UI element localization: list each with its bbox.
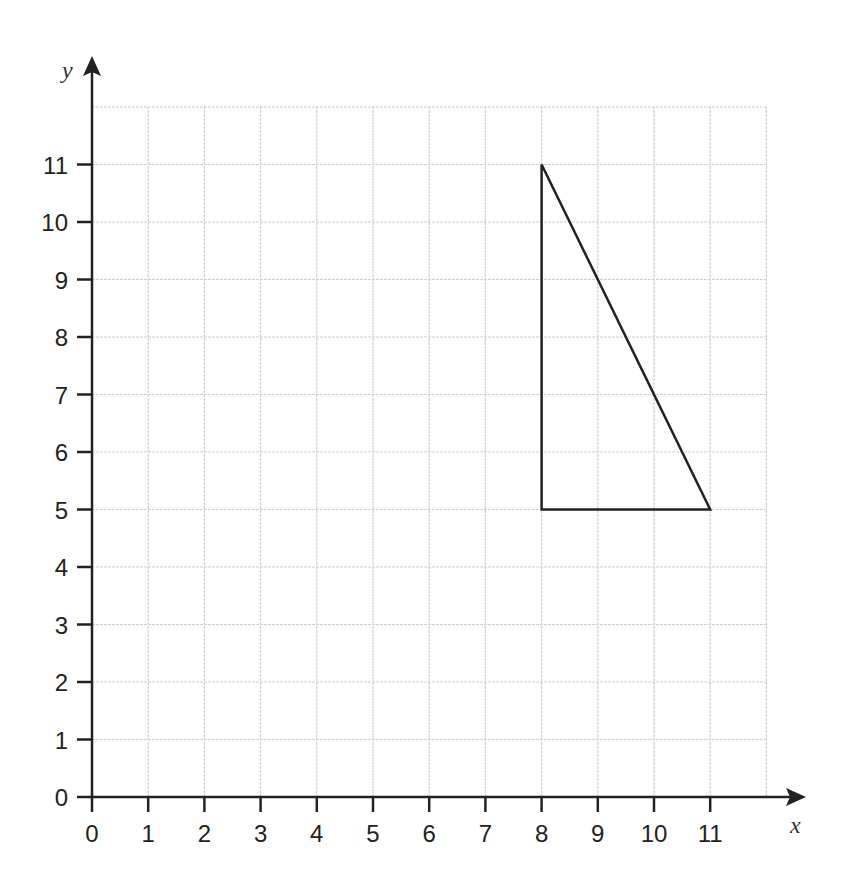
- x-tick-label: 10: [641, 820, 668, 847]
- y-tick-label: 8: [55, 324, 68, 351]
- x-axis-label: x: [789, 812, 801, 838]
- coordinate-grid-diagram: 01234567891011 01234567891011 x y: [0, 0, 855, 889]
- y-axis-ticks: 01234567891011: [41, 152, 92, 812]
- y-tick-label: 5: [55, 497, 68, 524]
- y-tick-label: 4: [55, 554, 68, 581]
- y-tick-label: 10: [41, 209, 68, 236]
- y-tick-label: 0: [55, 784, 68, 811]
- x-tick-label: 5: [366, 820, 379, 847]
- x-tick-label: 2: [198, 820, 211, 847]
- x-tick-label: 1: [142, 820, 155, 847]
- y-axis-label: y: [60, 57, 73, 83]
- axes: [83, 56, 806, 806]
- y-tick-label: 6: [55, 439, 68, 466]
- grid-lines: [92, 107, 766, 797]
- y-tick-label: 2: [55, 669, 68, 696]
- y-tick-label: 1: [55, 727, 68, 754]
- x-tick-label: 3: [254, 820, 267, 847]
- x-tick-label: 11: [698, 820, 723, 847]
- y-tick-label: 3: [55, 612, 68, 639]
- x-tick-label: 7: [479, 820, 492, 847]
- x-tick-label: 9: [591, 820, 604, 847]
- x-tick-label: 6: [423, 820, 436, 847]
- x-axis-ticks: 01234567891011: [85, 797, 722, 847]
- x-tick-label: 4: [310, 820, 323, 847]
- y-tick-label: 11: [43, 152, 68, 179]
- x-tick-label: 8: [535, 820, 548, 847]
- y-tick-label: 9: [55, 267, 68, 294]
- y-tick-label: 7: [55, 382, 68, 409]
- x-tick-label: 0: [85, 820, 98, 847]
